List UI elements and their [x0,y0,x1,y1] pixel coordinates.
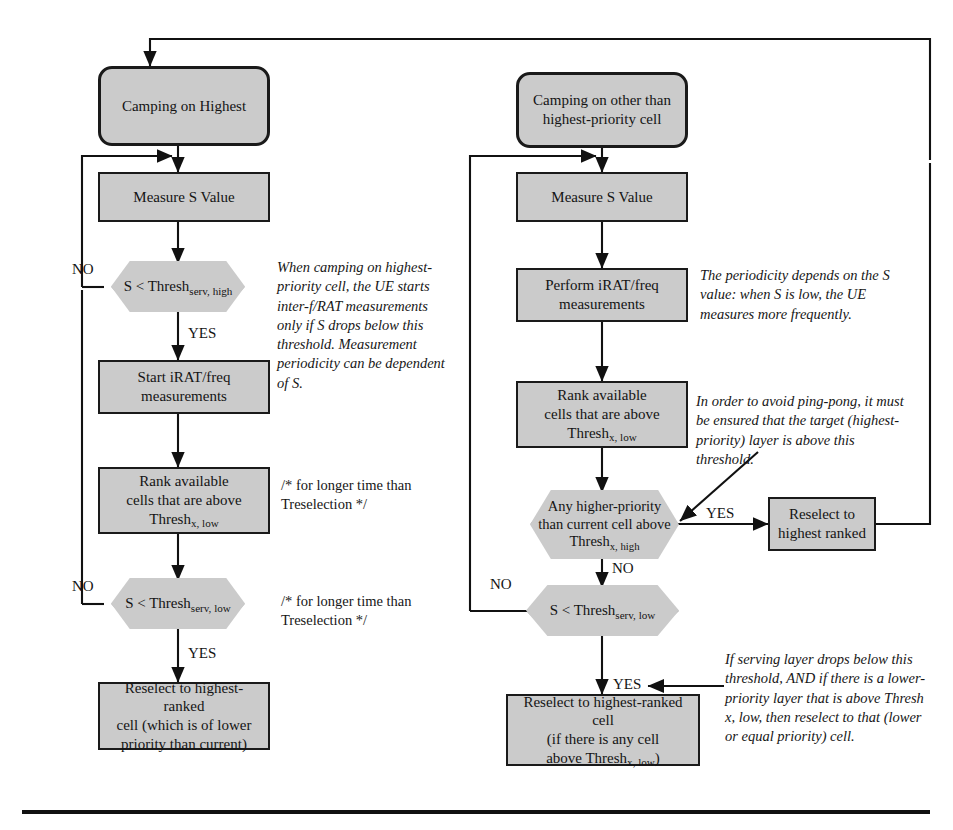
right-measure-node: Measure S Value [516,172,688,222]
right-decision-low-label: S < Threshserv, low [546,601,660,619]
left-decision-low-sub: serv, low [191,602,231,614]
right-reselect-bottom-label: Reselect to highest-ranked cell (if ther… [508,693,698,768]
right-reselect-top-label: Reselect to highest ranked [772,505,872,543]
left-decision-high-sub: serv, high [189,285,232,297]
right-decision-higher-node: Any higher-priority than current cell ab… [530,490,679,559]
right-reselect-bottom-sub: x, low [627,756,655,768]
left-start-irat-label: Start iRAT/freq measurements [132,368,237,406]
left-start-node: Camping on Highest [98,66,270,146]
left-decision-low-label: S < Threshserv, low [121,594,235,612]
left-yes-label-1: YES [188,325,216,342]
comment-2: /* for longer time than Treselection */ [281,592,461,631]
note-right-1: The periodicity depends on the S value: … [700,266,898,324]
left-reselect-label: Reselect to highest-ranked cell (which i… [100,679,268,754]
right-reselect-bottom-node: Reselect to highest-ranked cell (if ther… [506,694,700,766]
left-decision-high-label: S < Threshserv, high [120,277,237,295]
right-rank-label: Rank available cells that are above Thre… [538,386,665,442]
right-decision-higher-label: Any higher-priority than current cell ab… [534,498,674,551]
right-decision-higher-sub: x, high [610,540,640,552]
right-perform-label: Perform iRAT/freq measurements [539,276,665,314]
right-rank-node: Rank available cells that are above Thre… [516,381,688,448]
right-yes-label-higher: YES [706,505,734,522]
note-left-1: When camping on highest-priority cell, t… [277,258,451,393]
right-yes-label-low: YES [613,676,641,693]
left-reselect-node: Reselect to highest-ranked cell (which i… [98,682,270,750]
left-start-label: Camping on Highest [116,97,252,116]
flowchart-page: Camping on Highest Measure S Value S < T… [0,0,953,830]
left-start-irat-node: Start iRAT/freq measurements [98,360,270,414]
left-rank-label: Rank available cells that are above Thre… [120,472,247,528]
left-rank-node: Rank available cells that are above Thre… [98,467,270,534]
left-rank-sub: x, low [191,517,219,529]
right-measure-label: Measure S Value [545,188,658,207]
right-no-label-higher: NO [612,560,634,577]
left-decision-low-node: S < Threshserv, low [111,578,245,629]
right-reselect-top-node: Reselect to highest ranked [768,497,876,551]
comment-1: /* for longer time than Treselection */ [281,476,461,515]
right-perform-node: Perform iRAT/freq measurements [516,268,688,322]
left-measure-node: Measure S Value [98,172,270,222]
note-right-3: If serving layer drops below this thresh… [725,650,930,746]
bottom-rule [22,810,930,814]
left-decision-high-node: S < Threshserv, high [111,261,245,312]
right-decision-low-node: S < Threshserv, low [526,585,679,636]
left-no-label-2: NO [72,578,94,595]
left-no-label-1: NO [72,261,94,278]
note-right-2: In order to avoid ping-pong, it must be … [696,392,908,469]
right-start-node: Camping on other than highest-priority c… [516,72,688,148]
left-yes-label-2: YES [188,645,216,662]
right-no-label-low: NO [490,576,512,593]
right-decision-low-sub: serv, low [615,609,655,621]
right-start-label: Camping on other than highest-priority c… [527,91,677,129]
left-measure-label: Measure S Value [127,188,240,207]
right-rank-sub: x, low [609,431,637,443]
